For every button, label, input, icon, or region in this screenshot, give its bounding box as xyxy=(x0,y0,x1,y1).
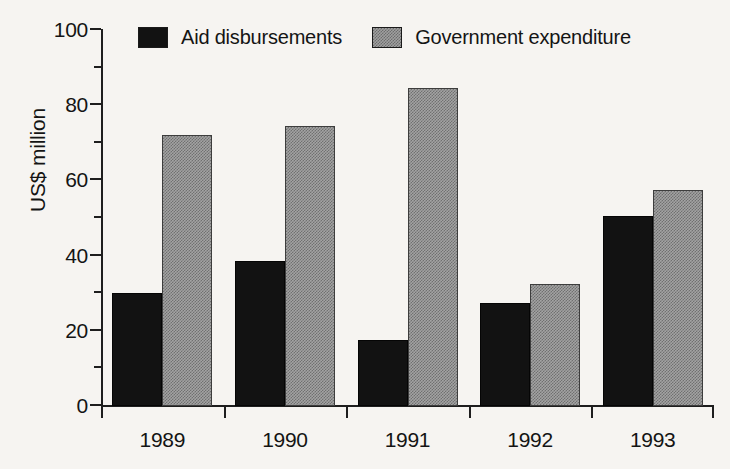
x-axis-tick-label-1990: 1990 xyxy=(262,428,308,452)
bar-aid-disbursements-1990 xyxy=(235,261,285,406)
legend-entry-government-expenditure: Government expenditure xyxy=(372,26,631,49)
x-axis-tick-label-1993: 1993 xyxy=(630,428,676,452)
y-axis-title: US$ million xyxy=(26,60,50,260)
x-axis-ticks: 19891990199119921993 xyxy=(101,406,714,418)
y-axis-tick-minor xyxy=(94,216,101,218)
plot-area xyxy=(101,30,714,406)
legend-swatch-aid-disbursements xyxy=(138,27,168,48)
bar-aid-disbursements-1991 xyxy=(358,340,408,406)
y-axis-tick-label: 80 xyxy=(65,93,88,117)
y-axis-tick-label: 20 xyxy=(65,319,88,343)
y-axis-tick-minor xyxy=(94,141,101,143)
y-axis-tick-minor xyxy=(94,291,101,293)
bar-government-expenditure-1992 xyxy=(530,284,580,406)
bar-chart-figure: Aid disbursements Government expenditure… xyxy=(0,0,730,469)
y-axis-tick-major xyxy=(90,329,101,331)
y-axis-tick-label: 60 xyxy=(65,168,88,192)
legend-label-aid-disbursements: Aid disbursements xyxy=(181,26,342,49)
y-axis-tick-major xyxy=(90,404,101,406)
y-axis-tick-major xyxy=(90,178,101,180)
x-axis-tick-label-1992: 1992 xyxy=(507,428,553,452)
x-axis-tick xyxy=(101,406,103,418)
chart-legend: Aid disbursements Government expenditure xyxy=(138,26,631,49)
y-axis-tick-minor xyxy=(94,66,101,68)
x-axis-tick xyxy=(224,406,226,418)
y-axis-tick-label: 100 xyxy=(54,18,88,42)
y-axis-tick-major xyxy=(90,28,101,30)
bar-aid-disbursements-1993 xyxy=(603,216,653,406)
x-axis-tick xyxy=(591,406,593,418)
x-axis-tick-label-1989: 1989 xyxy=(140,428,186,452)
legend-label-government-expenditure: Government expenditure xyxy=(415,26,631,49)
y-axis-tick-major xyxy=(90,254,101,256)
legend-swatch-government-expenditure xyxy=(372,27,402,48)
x-axis-tick xyxy=(712,406,714,418)
y-axis-tick-minor xyxy=(94,366,101,368)
x-axis-tick xyxy=(346,406,348,418)
bar-government-expenditure-1989 xyxy=(162,135,212,406)
bar-government-expenditure-1990 xyxy=(285,126,335,406)
y-axis-tick-label: 40 xyxy=(65,244,88,268)
x-axis-tick-label-1991: 1991 xyxy=(385,428,431,452)
y-axis-tick-label: 0 xyxy=(77,394,88,418)
bar-aid-disbursements-1992 xyxy=(480,303,530,406)
y-axis-tick-major xyxy=(90,103,101,105)
legend-entry-aid-disbursements: Aid disbursements xyxy=(138,26,342,49)
bar-government-expenditure-1993 xyxy=(653,190,703,406)
x-axis-tick xyxy=(469,406,471,418)
bar-aid-disbursements-1989 xyxy=(112,293,162,406)
bar-government-expenditure-1991 xyxy=(408,88,458,406)
